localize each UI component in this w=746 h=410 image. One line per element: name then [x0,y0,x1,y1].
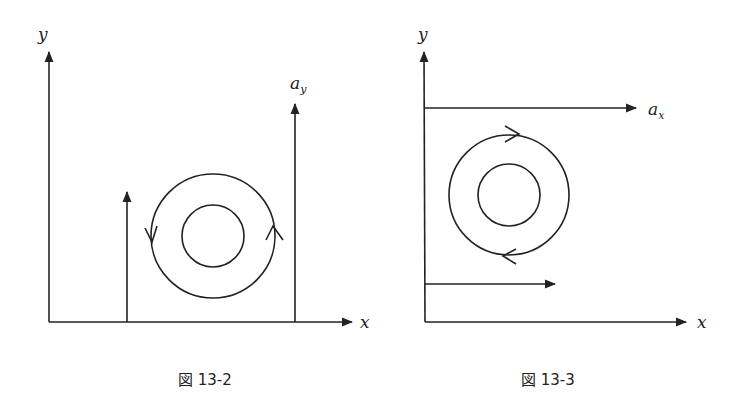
left-arrow-tick-icon [503,249,516,264]
figure-13-2 [49,52,352,322]
figure-13-3 [424,52,686,322]
right-arrow-tick-icon [505,126,519,142]
inner-circle [182,205,244,267]
inner-circle [478,164,540,226]
y-axis-label: y [37,24,48,44]
outer-loop-circle [151,174,275,298]
figure-caption: 図 13-2 [178,371,232,389]
figure-caption: 図 13-3 [521,371,575,389]
diagram-canvas: y x ay 図 13-2 y x ax 図 13-3 [0,0,746,410]
x-axis-label: x [697,312,707,332]
x-axis-label: x [360,312,370,332]
vector-label-ay: ay [290,73,307,96]
vector-label-ax: ax [648,99,665,122]
y-axis [424,52,425,322]
y-axis-label: y [417,24,428,44]
outer-loop-circle [449,135,569,255]
